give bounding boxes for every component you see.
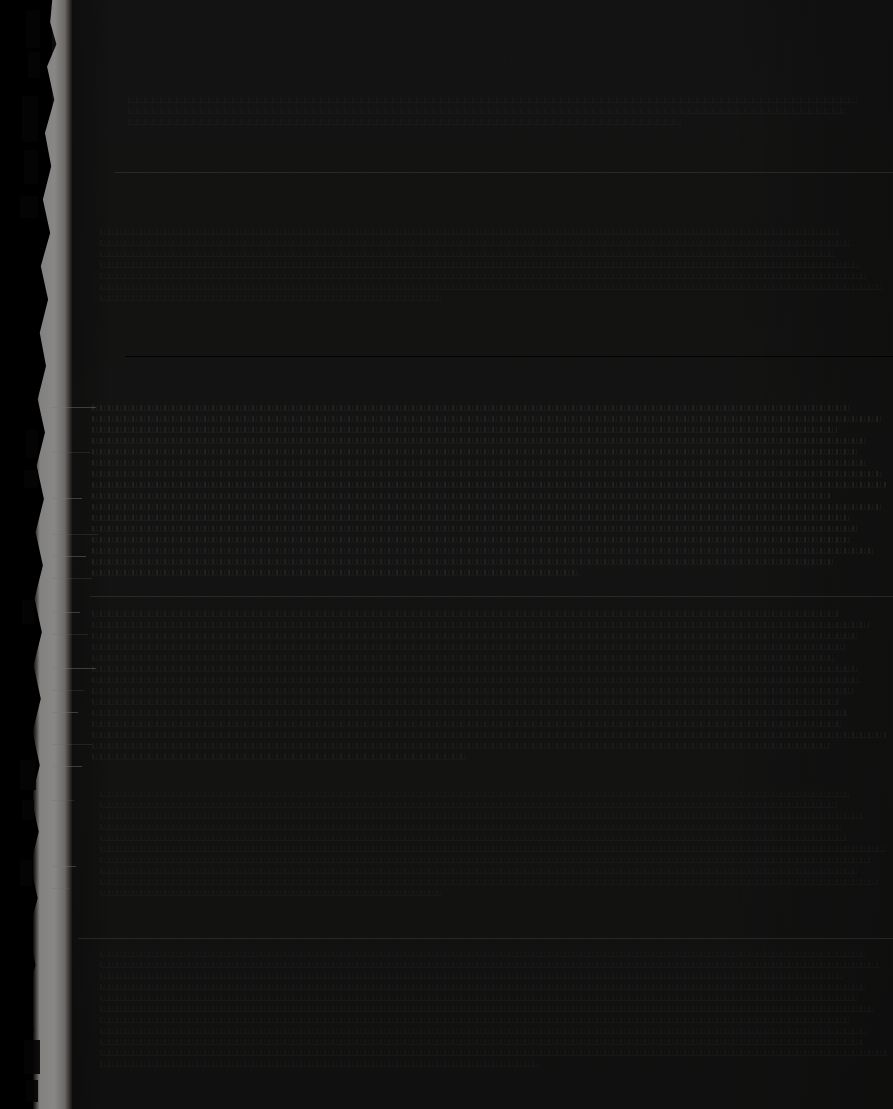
text-line: [92, 709, 847, 716]
edge-fleck: [26, 10, 40, 48]
text-line: [92, 621, 869, 628]
rule-lower: [90, 596, 893, 597]
edge-fleck: [22, 800, 34, 820]
text-line: [100, 867, 857, 874]
edge-fleck: [26, 430, 38, 458]
edge-fleck: [24, 470, 38, 488]
text-line: [100, 961, 880, 968]
block-main-b: [92, 610, 893, 764]
text-line: [92, 492, 830, 499]
text-line: [92, 676, 860, 683]
text-line: [92, 514, 850, 521]
edge-fleck: [20, 860, 32, 886]
text-line: [92, 731, 887, 738]
text-line: [100, 834, 846, 841]
text-line: [92, 569, 580, 576]
text-line: [100, 845, 885, 852]
text-line: [100, 790, 850, 797]
block-main-a: [92, 404, 893, 580]
text-line: [100, 250, 836, 257]
torn-page-edge: [20, 0, 72, 1109]
page-edge-highlight: [20, 0, 72, 1109]
text-line: [92, 470, 882, 477]
edge-fleck: [22, 96, 38, 142]
block-header: [128, 96, 873, 129]
text-line: [128, 96, 857, 103]
text-line: [92, 632, 857, 639]
text-line: [92, 426, 837, 433]
edge-fleck: [20, 760, 36, 790]
text-line: [92, 525, 857, 532]
text-line: [92, 654, 835, 661]
text-line: [92, 687, 853, 694]
text-line: [100, 889, 442, 896]
text-line: [128, 118, 681, 125]
text-line: [100, 994, 857, 1001]
text-line: [100, 1016, 850, 1023]
edge-fleck: [22, 600, 34, 624]
text-line: [100, 1005, 875, 1012]
text-line: [92, 547, 874, 554]
text-line: [100, 228, 838, 235]
edge-fleck: [20, 196, 38, 218]
edge-fleck: [28, 52, 40, 78]
rule-mid: [125, 356, 893, 357]
text-line: [92, 437, 867, 444]
text-line: [100, 1060, 538, 1067]
text-line: [100, 950, 865, 957]
text-line: [92, 665, 858, 672]
block-footer: [100, 950, 890, 1071]
scanned-document-page: [0, 0, 893, 1109]
text-line: [100, 1038, 863, 1045]
text-line: [100, 878, 878, 885]
text-line: [92, 459, 867, 466]
text-line: [92, 643, 845, 650]
text-line: [128, 107, 845, 114]
text-line: [100, 823, 841, 830]
text-line: [100, 801, 837, 808]
text-line: [100, 294, 442, 301]
block-lower: [100, 790, 890, 900]
block-upper: [100, 228, 890, 305]
text-line: [100, 272, 867, 279]
text-line: [100, 983, 866, 990]
text-line: [92, 720, 841, 727]
text-line: [92, 698, 838, 705]
rule-upper: [115, 172, 893, 173]
text-line: [100, 239, 851, 246]
rule-bottom: [78, 938, 893, 939]
text-line: [100, 1049, 887, 1056]
text-line: [100, 812, 864, 819]
text-line: [100, 972, 843, 979]
text-line: [92, 481, 886, 488]
text-line: [92, 404, 850, 411]
edge-fleck: [24, 150, 38, 184]
text-line: [92, 742, 829, 749]
text-line: [92, 558, 833, 565]
text-line: [100, 283, 883, 290]
text-line: [92, 503, 882, 510]
text-line: [92, 753, 467, 760]
text-line: [92, 610, 838, 617]
text-line: [100, 261, 860, 268]
text-line: [92, 415, 881, 422]
text-line: [100, 856, 870, 863]
text-line: [100, 1027, 867, 1034]
text-line: [92, 536, 852, 543]
text-line: [92, 448, 857, 455]
